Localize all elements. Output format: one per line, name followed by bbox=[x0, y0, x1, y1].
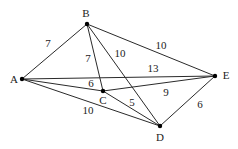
node-labels-layer: ABCDE bbox=[10, 7, 230, 143]
edge-a-e bbox=[22, 76, 215, 79]
node-c bbox=[101, 89, 105, 93]
node-d bbox=[158, 124, 162, 128]
node-a bbox=[20, 77, 24, 81]
node-label-a: A bbox=[10, 73, 18, 85]
edge-a-b bbox=[22, 24, 87, 79]
edge-d-e bbox=[160, 76, 215, 126]
edges-layer bbox=[22, 24, 215, 126]
node-label-d: D bbox=[156, 131, 164, 143]
edge-weight-b-d: 10 bbox=[115, 47, 127, 59]
node-label-e: E bbox=[223, 69, 230, 81]
edge-weight-d-e: 6 bbox=[197, 98, 203, 110]
edge-weight-c-d: 5 bbox=[129, 96, 135, 108]
edge-weight-c-e: 9 bbox=[163, 86, 169, 98]
edge-weight-a-d: 10 bbox=[83, 104, 95, 116]
node-label-b: B bbox=[82, 7, 89, 19]
edge-weight-b-e: 10 bbox=[156, 39, 168, 51]
edge-weight-a-b: 7 bbox=[45, 37, 51, 49]
edge-weight-a-e: 13 bbox=[148, 62, 160, 74]
edge-weight-b-c: 7 bbox=[85, 52, 91, 64]
edge-c-e bbox=[103, 76, 215, 91]
edge-weight-a-c: 6 bbox=[88, 77, 94, 89]
node-e bbox=[213, 74, 217, 78]
node-label-c: C bbox=[99, 94, 106, 106]
node-b bbox=[85, 22, 89, 26]
weighted-graph-diagram: 77101013695106 ABCDE bbox=[0, 0, 238, 149]
